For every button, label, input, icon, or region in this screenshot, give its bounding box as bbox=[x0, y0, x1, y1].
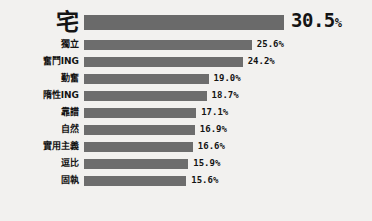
bar-value-label: 19.0% bbox=[214, 73, 241, 84]
bar-value-label: 15.6% bbox=[191, 175, 218, 186]
bar-category-label: 隋性ING bbox=[0, 90, 84, 101]
bar-value-label: 24.2% bbox=[248, 56, 275, 67]
horizontal-bar-chart: 宅 30.5% 獨立 25.6% 奮鬥ING 24.2% 勤奮 bbox=[0, 0, 372, 221]
bar-track: 24.2% bbox=[84, 53, 372, 70]
bar-category-label: 固執 bbox=[0, 175, 84, 186]
bar-category-label: 獨立 bbox=[0, 39, 84, 50]
bar-track: 18.7% bbox=[84, 87, 372, 104]
bar-track: 25.6% bbox=[84, 36, 372, 53]
bar-category-label: 靠譜 bbox=[0, 107, 84, 118]
bar-track: 16.6% bbox=[84, 138, 372, 155]
chart-row: 逗比 15.9% bbox=[0, 155, 372, 172]
bar-track: 15.9% bbox=[84, 155, 372, 172]
bar-category-label: 奮鬥ING bbox=[0, 56, 84, 67]
bar-value-label: 30.5% bbox=[291, 10, 342, 34]
chart-rows: 宅 30.5% 獨立 25.6% 奮鬥ING 24.2% 勤奮 bbox=[0, 8, 372, 189]
chart-row: 宅 30.5% bbox=[0, 8, 372, 36]
chart-row: 獨立 25.6% bbox=[0, 36, 372, 53]
bar-value-label: 17.1% bbox=[201, 107, 228, 118]
bar bbox=[84, 108, 196, 118]
bar bbox=[84, 15, 284, 30]
bar-category-label: 逗比 bbox=[0, 158, 84, 169]
bar bbox=[84, 57, 243, 67]
bar-value-label: 25.6% bbox=[257, 39, 284, 50]
bar-track: 15.6% bbox=[84, 172, 372, 189]
bar-category-label: 自然 bbox=[0, 124, 84, 135]
bar-value-label: 15.9% bbox=[193, 158, 220, 169]
bar bbox=[84, 142, 193, 152]
chart-row: 勤奮 19.0% bbox=[0, 70, 372, 87]
percent-sign: % bbox=[335, 16, 342, 30]
bar-track: 30.5% bbox=[84, 8, 372, 36]
bar-value-label: 16.9% bbox=[200, 124, 227, 135]
bar-category-label: 宅 bbox=[0, 10, 84, 35]
chart-row: 隋性ING 18.7% bbox=[0, 87, 372, 104]
bar bbox=[84, 125, 195, 135]
bar bbox=[84, 159, 188, 169]
bar bbox=[84, 74, 209, 84]
bar-track: 17.1% bbox=[84, 104, 372, 121]
chart-row: 靠譜 17.1% bbox=[0, 104, 372, 121]
bar-value-label: 16.6% bbox=[198, 141, 225, 152]
bar-category-label: 實用主義 bbox=[0, 141, 84, 152]
bar-category-label: 勤奮 bbox=[0, 73, 84, 84]
chart-row: 實用主義 16.6% bbox=[0, 138, 372, 155]
bar-value-label: 18.7% bbox=[212, 90, 239, 101]
bar-track: 16.9% bbox=[84, 121, 372, 138]
bar-track: 19.0% bbox=[84, 70, 372, 87]
bar bbox=[84, 40, 252, 50]
bar bbox=[84, 176, 186, 186]
chart-row: 固執 15.6% bbox=[0, 172, 372, 189]
bar bbox=[84, 91, 207, 101]
chart-row: 自然 16.9% bbox=[0, 121, 372, 138]
chart-row: 奮鬥ING 24.2% bbox=[0, 53, 372, 70]
